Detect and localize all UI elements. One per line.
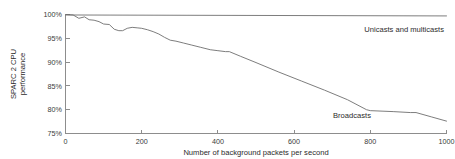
chart-figure: 100% 95% 90% 85% 80% 75% 0 200 400 600 8…: [0, 0, 455, 159]
y-tick-marks: [66, 15, 70, 134]
y-tick-label-100: 100%: [44, 10, 63, 19]
y-tick-labels: 100% 95% 90% 85% 80% 75%: [44, 10, 63, 138]
line-chart-svg: 100% 95% 90% 85% 80% 75% 0 200 400 600 8…: [0, 0, 455, 159]
y-axis-title-line2: performance: [18, 53, 27, 96]
x-tick-label-1000: 1000: [439, 137, 455, 146]
y-tick-label-80: 80%: [48, 105, 63, 114]
series-annotation-unicasts: Unicasts and multicasts: [364, 25, 444, 34]
x-tick-marks: [66, 130, 447, 134]
x-tick-label-600: 600: [288, 137, 300, 146]
x-tick-label-400: 400: [212, 137, 224, 146]
y-tick-label-75: 75%: [48, 129, 63, 138]
x-axis-title: Number of background packets per second: [183, 148, 328, 157]
y-tick-label-90: 90%: [48, 58, 63, 67]
x-tick-label-800: 800: [364, 137, 376, 146]
y-tick-label-85: 85%: [48, 82, 63, 91]
series-line-unicasts-and-multicasts: [66, 15, 447, 16]
x-tick-labels: 0 200 400 600 800 1000: [64, 137, 455, 146]
y-axis-title-line1: SPARC 2 CPU: [9, 49, 18, 99]
x-tick-label-0: 0: [64, 137, 68, 146]
y-tick-label-95: 95%: [48, 34, 63, 43]
x-tick-label-200: 200: [136, 137, 148, 146]
series-annotation-broadcasts: Broadcasts: [333, 111, 371, 120]
